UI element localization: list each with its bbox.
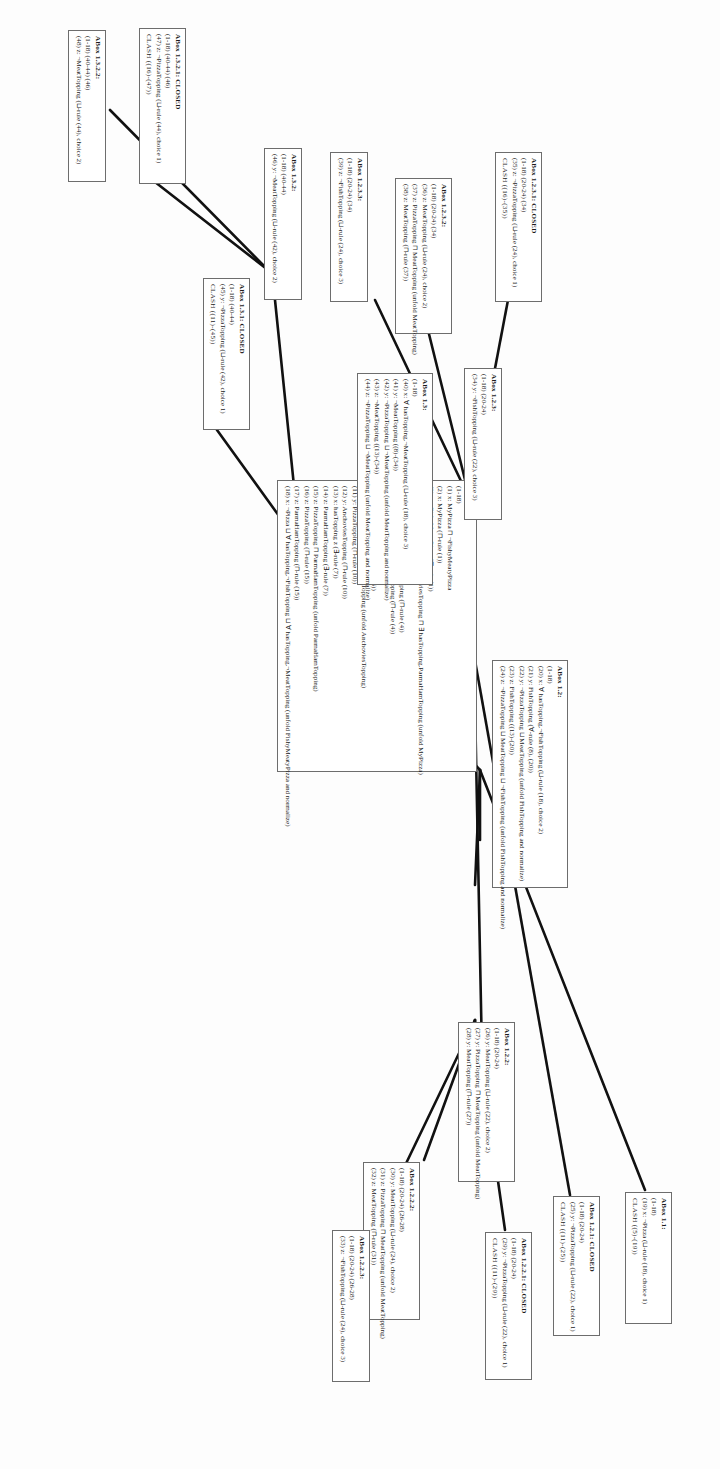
abox-line: (19) x: ¬Pizza (⊔-rule (18), choice 1) (639, 1198, 649, 1318)
abox-line: (1) x: MyPizza ⊓ ¬FishyMeatyPizza (444, 486, 454, 766)
abox-line: (46) y: ¬MeatTopping (⊔-rule (42), choic… (269, 154, 279, 294)
abox-line: (1-18) (454, 486, 464, 766)
abox-node-1-1[interactable]: ABox 1.1: (1-18) (19) x: ¬Pizza (⊔-rule … (625, 1192, 672, 1324)
abox-line: (44) z: ¬PizzaTopping ⊔ ¬MeatTopping (un… (362, 379, 372, 579)
abox-line: (34) y: ¬FishTopping (⊔-rule (22), choic… (469, 374, 479, 514)
abox-line: (42) y: ¬PizzaTopping ⊔ ¬MeatTopping (un… (381, 379, 391, 579)
abox-header: ABox 1.3.2: (288, 154, 298, 294)
abox-line: (13) x: hasTopping z (∃-rule (7)) (330, 486, 340, 766)
abox-header: ABox 1.2.3.2: (438, 184, 448, 328)
abox-line: (15) z: PizzaTopping ⊓ ParmaHamTopping (… (311, 486, 321, 766)
abox-line: (1-18) (20-24) (26-28) (397, 1168, 407, 1314)
abox-line: (30) y: MeatTopping (⊔-rule (24), choice… (387, 1168, 397, 1314)
abox-line: (1-18) (40-44) (279, 154, 289, 294)
abox-line: (1-18) (649, 1198, 659, 1318)
abox-line: (45) y: ¬PizzaTopping (⊔-rule (42), choi… (217, 284, 227, 424)
abox-line: (26) y: MeatTopping (⊔-rule (22), choice… (482, 1028, 492, 1176)
abox-node-1-2-1[interactable]: ABox 1.2.1: CLOSED (1-18) (20-24) (25) y… (553, 1196, 600, 1336)
abox-line: (1-18) (410, 379, 420, 579)
abox-line: (1-18) (40-44) (227, 284, 237, 424)
abox-line: (35) z: ¬PizzaTopping (⊔-rule (24), choi… (509, 158, 519, 296)
abox-line: (17) z: ParmaHamTopping (⊓-rule (15)) (292, 486, 302, 766)
abox-header: ABox 1.2.2.3: (356, 1236, 366, 1376)
abox-header: ABox 1: (463, 486, 473, 766)
abox-clash: CLASH ((5)-(19)) (630, 1198, 640, 1318)
abox-line: (1-18) (20-24) (509, 1238, 519, 1374)
abox-node-1-2-2-1[interactable]: ABox 1.2.2.1: CLOSED (1-18) (20-24) (29)… (485, 1232, 532, 1380)
abox-line: (23) z: FishTopping ((13)-(20)) (507, 666, 517, 882)
abox-header: ABox 1.3: (419, 379, 429, 579)
abox-line: (2) x: MyPizza (⊓-rule (1)) (435, 486, 445, 766)
abox-header: ABox 1.2.2.2: (406, 1168, 416, 1314)
abox-line: (41) y: ¬MeatTopping ((8)-(34)) (391, 379, 401, 579)
abox-line: (33) z: ¬FishTopping (⊔-rule (24), choic… (337, 1236, 347, 1376)
abox-node-1-2-3-2[interactable]: ABox 1.2.3.2: (1-18) (20-24) (34) (36) z… (395, 178, 452, 334)
abox-node-1-3-2[interactable]: ABox 1.3.2: (1-18) (40-44) (46) y: ¬Meat… (264, 148, 302, 300)
abox-line: (18) x: ¬Pizza ⊔ ∀ hasTopping.¬FishToppi… (282, 486, 292, 766)
abox-line: (1-18) (545, 666, 555, 882)
abox-header: ABox 1.2.3.1: CLOSED (528, 158, 538, 296)
abox-line: (36) z: MeatTopping (⊔-rule (24), choice… (419, 184, 429, 328)
abox-node-1-3-2-1[interactable]: ABox 1.3.2.1: CLOSED (1-18) (40-44) (46)… (139, 28, 186, 184)
abox-clash: CLASH ((11)-(29)) (490, 1238, 500, 1374)
edge-1-3-2-to-1-3-2-2 (110, 110, 268, 270)
abox-node-1-2-3-3[interactable]: ABox 1.2.3.3: (1-18) (20-24) (34) (39) z… (330, 152, 368, 302)
abox-line: (1-18) (20-24) (492, 1028, 502, 1176)
abox-line: (22) y: ¬PizzaTopping ⊔ MeatTopping (unf… (516, 666, 526, 882)
abox-node-1-2-3[interactable]: ABox 1.2.3: (1-18) (20-24) (34) y: ¬Fish… (464, 368, 502, 520)
abox-line: (39) z: ¬FishTopping (⊔-rule (24), choic… (335, 158, 345, 296)
abox-line: (47) z: ¬PizzaTopping (⊔-rule (44), choi… (153, 34, 163, 178)
tableau-tree-canvas: ABox 1: (1-18) (1) x: MyPizza ⊓ ¬FishyMe… (0, 0, 720, 1469)
abox-line: (25) y: ¬PizzaTopping (⊔-rule (22), choi… (567, 1202, 577, 1330)
abox-line: (21) y: FishTopping (∀-rule (8), (20)) (526, 666, 536, 882)
abox-clash: CLASH ((11)-(25)) (558, 1202, 568, 1330)
abox-line: (28) y: MeatTopping (⊓-rule (27)) (463, 1028, 473, 1176)
abox-node-1-2-2-3[interactable]: ABox 1.2.2.3: (1-18) (20-24) (26-28) (33… (332, 1230, 370, 1382)
abox-header: ABox 1.2.2.1: CLOSED (518, 1238, 528, 1374)
abox-clash: CLASH ((11)-(45)) (208, 284, 218, 424)
abox-line: (14) z: ParmaHamTopping (∃-rule (7)) (321, 486, 331, 766)
abox-node-1-3-1[interactable]: ABox 1.3.1: CLOSED (1-18) (40-44) (45) y… (203, 278, 250, 430)
abox-line: (16) z: PizzaTopping (⊓-rule (15)) (301, 486, 311, 766)
abox-node-1-2[interactable]: ABox 1.2: (1-18) (20) x: ∀ hasTopping.¬F… (492, 660, 568, 888)
abox-header: ABox 1.2: (554, 666, 564, 882)
abox-line: (29) y: ¬PizzaTopping (⊔-rule (22), choi… (499, 1238, 509, 1374)
abox-line: (1-18) (40-44) (46) (83, 36, 93, 176)
abox-line: (38) z: MeatTopping (⊓-rule (37)) (400, 184, 410, 328)
abox-line: (1-18) (20-24) (577, 1202, 587, 1330)
abox-line: (1-18) (20-24) (26-28) (347, 1236, 357, 1376)
rotated-figure-wrapper: ABox 1: (1-18) (1) x: MyPizza ⊓ ¬FishyMe… (0, 0, 720, 1469)
abox-line: (1-18) (40-44) (46) (163, 34, 173, 178)
abox-node-1-3-2-2[interactable]: ABox 1.3.2.2: (1-18) (40-44) (46) (48) z… (68, 30, 106, 182)
abox-header: ABox 1.3.1: CLOSED (236, 284, 246, 424)
abox-clash: CLASH ((16)-(47)) (144, 34, 154, 178)
edge-1-3-2-to-1-3-2-1 (155, 182, 268, 270)
abox-header: ABox 1.2.3: (488, 374, 498, 514)
abox-line: (1-18) (20-24) (34) (345, 158, 355, 296)
abox-header: ABox 1.2.1: CLOSED (586, 1202, 596, 1330)
abox-header: ABox 1.1: (658, 1198, 668, 1318)
abox-line: (48) z: ¬MeatTopping (⊔-rule (44), choic… (73, 36, 83, 176)
abox-node-1-2-2[interactable]: ABox 1.2.2: (1-18) (20-24) (26) y: MeatT… (458, 1022, 515, 1182)
abox-node-1-3[interactable]: ABox 1.3: (1-18) (40) x: ∀ hasTopping.¬M… (357, 373, 433, 585)
abox-line: (37) z: PizzaTopping ⊓ MeatTopping (unfo… (410, 184, 420, 328)
abox-line: (40) x: ∀ hasTopping.¬MeatTopping (⊔-rul… (400, 379, 410, 579)
abox-line: (24) z: ¬PizzaTopping ⊔ MeatTopping ⊔ ¬F… (497, 666, 507, 882)
abox-line: (43) z: ¬MeatTopping ((13)-(34)) (372, 379, 382, 579)
abox-line: (1-18) (20-24) (34) (519, 158, 529, 296)
abox-line: (31) z: PizzaTopping ⊓ MeatTopping (unfo… (378, 1168, 388, 1314)
abox-line: (1-18) (20-24) (479, 374, 489, 514)
abox-header: ABox 1.2.3.3: (354, 158, 364, 296)
abox-node-1-2-3-1[interactable]: ABox 1.2.3.1: CLOSED (1-18) (20-24) (34)… (495, 152, 542, 302)
abox-header: ABox 1.3.2.2: (92, 36, 102, 176)
abox-header: ABox 1.3.2.1: CLOSED (172, 34, 182, 178)
abox-clash: CLASH ((16)-(35)) (500, 158, 510, 296)
abox-line: (20) x: ∀ hasTopping.¬FishTopping (⊔-rul… (535, 666, 545, 882)
abox-node-1-2-2-2[interactable]: ABox 1.2.2.2: (1-18) (20-24) (26-28) (30… (363, 1162, 420, 1320)
abox-header: ABox 1.2.2: (501, 1028, 511, 1176)
abox-line: (27) y: PizzaTopping ⊓ MeatTopping (unfo… (473, 1028, 483, 1176)
abox-line: (12) y: AnchoviesTopping (⊓-rule (10)) (340, 486, 350, 766)
abox-line: (1-18) (20-24) (34) (429, 184, 439, 328)
